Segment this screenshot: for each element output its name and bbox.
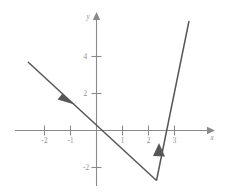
x-tick-label--2: -2 — [42, 137, 48, 145]
y-tick-labels: 4 2 -2 — [83, 53, 89, 172]
x-tick-label--1: -1 — [68, 137, 74, 145]
x-tick-label-2: 2 — [147, 137, 151, 145]
x-axis-label: x — [209, 134, 214, 142]
y-axis-label: y — [85, 13, 90, 21]
y-axis-arrowhead — [93, 12, 100, 20]
coordinate-plane: -2 -1 1 2 3 4 2 -2 x y — [0, 0, 228, 192]
x-tick-labels: -2 -1 1 2 3 — [42, 137, 177, 145]
y-tick-label-4: 4 — [83, 53, 87, 61]
y-tick-label--2: -2 — [83, 164, 89, 172]
descending-ray-direction-arrowhead — [58, 94, 75, 105]
y-tick-label-2: 2 — [83, 90, 87, 98]
ascending-ray — [157, 21, 190, 181]
x-tick-label-3: 3 — [173, 137, 177, 145]
plot-series-group — [28, 21, 189, 181]
descending-ray — [28, 62, 157, 181]
x-tick-label-1: 1 — [121, 137, 125, 145]
graph-figure: -2 -1 1 2 3 4 2 -2 x y — [0, 0, 228, 192]
